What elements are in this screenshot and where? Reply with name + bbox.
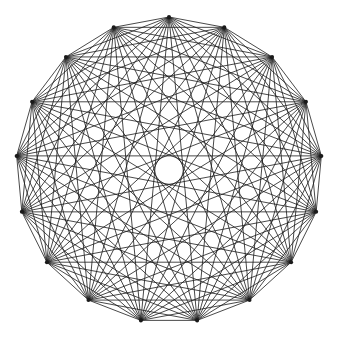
- graph-edge: [88, 27, 224, 300]
- graph-edge: [272, 57, 291, 262]
- graph-edge: [47, 17, 169, 262]
- graph-edge: [22, 102, 306, 212]
- graph-vertex: [314, 210, 318, 214]
- graph-edge: [224, 27, 306, 101]
- graph-edge: [141, 57, 272, 320]
- graph-edge: [141, 156, 321, 321]
- graph-edge: [17, 156, 291, 262]
- graph-vertex: [270, 55, 274, 59]
- graph-edge: [47, 262, 89, 300]
- graph-vertex: [139, 318, 143, 322]
- graph-edge: [114, 27, 306, 101]
- graph-edge: [22, 212, 141, 321]
- graph-vertex: [248, 298, 252, 302]
- graph-vertex: [319, 154, 323, 158]
- graph-edge: [17, 27, 114, 156]
- graph-edge: [88, 27, 113, 300]
- graph-edge: [114, 27, 291, 262]
- graph-vertex: [15, 154, 19, 158]
- graph-vertex: [64, 55, 68, 59]
- graph-edge: [47, 156, 321, 262]
- complete-graph-diagram: [0, 0, 340, 348]
- graph-edge: [197, 212, 316, 321]
- graph-edge: [224, 27, 316, 212]
- graph-vertex: [112, 25, 116, 29]
- graph-edge: [32, 27, 114, 101]
- graph-vertex: [304, 100, 308, 104]
- graph-edge: [250, 262, 292, 300]
- graph-edge: [22, 27, 224, 212]
- graph-edge: [32, 102, 316, 212]
- graph-edge: [224, 27, 249, 300]
- graph-edge: [66, 57, 197, 320]
- graph-edge: [47, 57, 66, 262]
- graph-vertex: [86, 298, 90, 302]
- graph-vertex: [167, 15, 171, 19]
- graph-edge: [169, 17, 197, 320]
- graph-edge: [32, 27, 224, 101]
- graph-vertex: [289, 260, 293, 264]
- graph-edge: [47, 27, 224, 262]
- graph-edge: [22, 27, 114, 212]
- graph-vertex: [222, 25, 226, 29]
- graph-vertex: [195, 318, 199, 322]
- graph-vertex: [20, 210, 24, 214]
- graph-vertex: [30, 100, 34, 104]
- graph-edge: [141, 17, 169, 320]
- graph-vertex: [45, 260, 49, 264]
- graph-edge: [17, 156, 197, 321]
- graph-edges: [17, 17, 322, 320]
- graph-edge: [114, 27, 250, 300]
- graph-edge: [169, 17, 291, 262]
- graph-edge: [114, 27, 316, 212]
- graph-edge: [224, 27, 321, 156]
- graph-canvas: [0, 0, 340, 348]
